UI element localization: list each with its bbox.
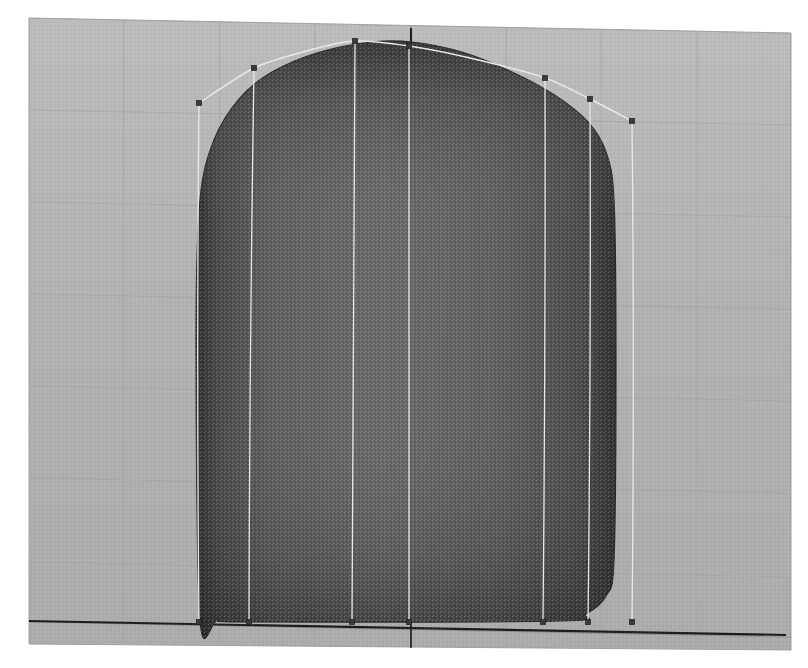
control-point-cp-10[interactable] [350,620,355,625]
control-point-cp-13[interactable] [586,620,591,625]
control-point-cp-9[interactable] [247,620,252,625]
control-point-cp-7[interactable] [630,119,635,124]
cad-viewport[interactable] [0,0,808,668]
ground-plane-grain [29,18,791,650]
control-point-cp-12[interactable] [541,620,546,625]
control-point-cp-1[interactable] [197,101,202,106]
control-point-cp-5[interactable] [543,76,548,81]
control-point-cp-8[interactable] [197,620,202,625]
control-point-cp-11[interactable] [407,620,412,625]
viewport-canvas[interactable] [0,0,808,668]
control-point-cp-3[interactable] [353,39,358,44]
control-point-cp-4[interactable] [407,44,412,49]
control-point-cp-14[interactable] [630,620,635,625]
control-point-cp-2[interactable] [252,66,257,71]
control-point-cp-6[interactable] [588,97,593,102]
